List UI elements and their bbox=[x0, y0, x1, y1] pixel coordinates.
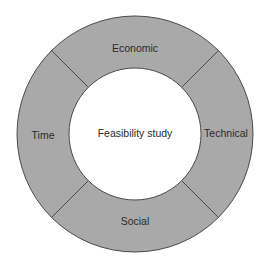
segment-label-economic: Economic bbox=[112, 42, 158, 54]
center-label: Feasibility study bbox=[95, 127, 175, 139]
segment-label-technical: Technical bbox=[204, 127, 248, 139]
segment-label-time: Time bbox=[32, 129, 55, 141]
segment-label-social: Social bbox=[121, 215, 150, 227]
